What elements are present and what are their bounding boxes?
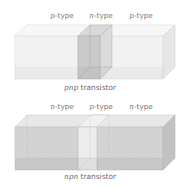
pnp-block-illustration — [0, 0, 189, 94]
npn-caption: npn transistor — [64, 172, 116, 181]
pnp-caption: pnp transistor — [64, 83, 116, 92]
